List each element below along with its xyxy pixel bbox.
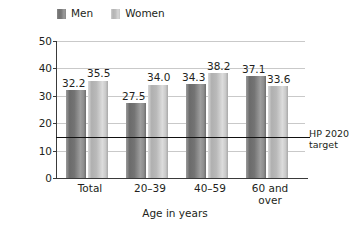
x-axis-line: [56, 178, 308, 179]
legend-swatch-women-icon: [111, 9, 120, 19]
hp-2020-target-label-line1: HP 2020: [309, 129, 349, 140]
bar-20-39-men[interactable]: [126, 103, 146, 178]
bar-20-39-women[interactable]: [148, 85, 168, 178]
bar-60-and-over-men[interactable]: [246, 76, 266, 178]
hp-2020-target-label-line2: target: [309, 140, 338, 151]
y-tick-0: 0: [30, 173, 52, 184]
bar-value-20-39-men: 27.5: [122, 91, 145, 102]
bar-groups: 32.2 35.5 27.5 34.0 34.3 38.2 37.1 33.6: [57, 41, 305, 178]
y-tick-mark-0: [53, 178, 57, 179]
bar-chart: Men Women Percent 50 40 30 20 10 0: [0, 0, 350, 229]
bar-group-20-39: 27.5 34.0: [123, 41, 177, 178]
bar-value-60-and-over-women: 33.6: [267, 74, 290, 85]
legend-swatch-men-icon: [57, 9, 66, 19]
bar-group-total: 32.2 35.5: [63, 41, 117, 178]
plot-area: 32.2 35.5 27.5 34.0 34.3 38.2 37.1 33.6: [57, 41, 305, 178]
bar-total-women[interactable]: [88, 81, 108, 178]
bar-40-59-men[interactable]: [186, 84, 206, 178]
y-tick-10: 10: [30, 145, 52, 156]
bar-value-40-59-women: 38.2: [207, 61, 230, 72]
bar-value-total-men: 32.2: [62, 78, 85, 89]
legend-label-men: Men: [71, 8, 93, 19]
bar-group-40-59: 34.3 38.2: [183, 41, 237, 178]
x-label-total: Total: [63, 182, 117, 194]
x-label-60-and-over: 60 and over: [243, 182, 297, 206]
y-axis-tick-labels: 50 40 30 20 10 0: [28, 41, 52, 178]
y-tick-20: 20: [30, 118, 52, 129]
legend-item-women: Women: [111, 8, 165, 19]
y-tick-30: 30: [30, 90, 52, 101]
legend-item-men: Men: [57, 8, 93, 19]
x-label-40-59: 40–59: [183, 182, 237, 194]
x-label-20-39: 20–39: [123, 182, 177, 194]
bar-60-and-over-women[interactable]: [268, 86, 288, 178]
x-axis-title: Age in years: [0, 208, 350, 219]
bar-value-total-women: 35.5: [87, 68, 110, 79]
y-tick-50: 50: [30, 36, 52, 47]
hp-2020-target-line: [56, 137, 310, 138]
bar-40-59-women[interactable]: [208, 73, 228, 178]
chart-legend: Men Women: [57, 8, 165, 19]
bar-group-60-and-over: 37.1 33.6: [243, 41, 297, 178]
bar-value-60-and-over-men: 37.1: [242, 64, 265, 75]
y-tick-40: 40: [30, 63, 52, 74]
bar-value-40-59-men: 34.3: [182, 72, 205, 83]
legend-label-women: Women: [125, 8, 165, 19]
bar-value-20-39-women: 34.0: [147, 72, 170, 83]
bar-total-men[interactable]: [66, 90, 86, 178]
